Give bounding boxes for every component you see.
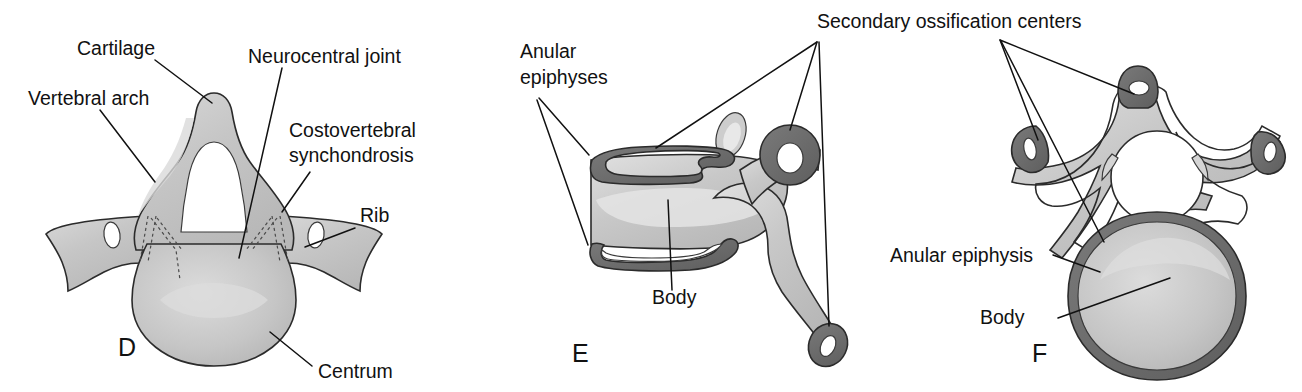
label-secondary-ossification-centers: Secondary ossification centers xyxy=(817,10,1082,32)
leader-cartilage xyxy=(155,60,212,103)
leader-anular-epiphyses-lower xyxy=(537,100,588,245)
label-costovertebral-line2: synchondrosis xyxy=(289,144,414,166)
label-anular-epiphyses-line1: Anular xyxy=(520,40,577,62)
leader-secondary-f-spinous xyxy=(1000,40,1134,94)
vertebral-foramen-f xyxy=(1111,131,1203,223)
leader-vertebral-arch xyxy=(100,110,155,182)
ossification-ring-e-upper-hole xyxy=(777,143,803,173)
leader-secondary-to-e-upper-ring xyxy=(790,42,817,130)
leader-costovertebral xyxy=(282,172,310,212)
label-cartilage: Cartilage xyxy=(77,37,155,59)
label-body-e: Body xyxy=(652,286,697,308)
label-vertebral-arch: Vertebral arch xyxy=(28,87,149,109)
panel-f-group: Anular epiphysis Body F xyxy=(890,40,1285,380)
figure-canvas: Cartilage Vertebral arch Neurocentral jo… xyxy=(0,0,1302,392)
label-centrum: Centrum xyxy=(318,360,393,382)
anatomy-figure: Cartilage Vertebral arch Neurocentral jo… xyxy=(0,0,1302,392)
panel-letter-d: D xyxy=(118,333,136,361)
label-costovertebral-line1: Costovertebral xyxy=(289,119,416,141)
panel-d-group: Cartilage Vertebral arch Neurocentral jo… xyxy=(28,37,416,382)
label-body-f: Body xyxy=(980,306,1025,328)
leader-centrum xyxy=(270,332,312,366)
leader-secondary-f-left-tp xyxy=(1000,40,1038,140)
label-anular-epiphysis: Anular epiphysis xyxy=(890,244,1033,266)
panel-letter-f: F xyxy=(1032,339,1047,367)
panel-letter-e: E xyxy=(572,339,589,367)
panel-e-group: Anular epiphyses Body E xyxy=(520,40,855,373)
label-anular-epiphyses-line2: epiphyses xyxy=(520,66,608,88)
label-neurocentral-joint: Neurocentral joint xyxy=(248,45,401,67)
label-rib: Rib xyxy=(360,204,389,226)
leader-secondary-to-e-lower-ring xyxy=(819,42,829,326)
